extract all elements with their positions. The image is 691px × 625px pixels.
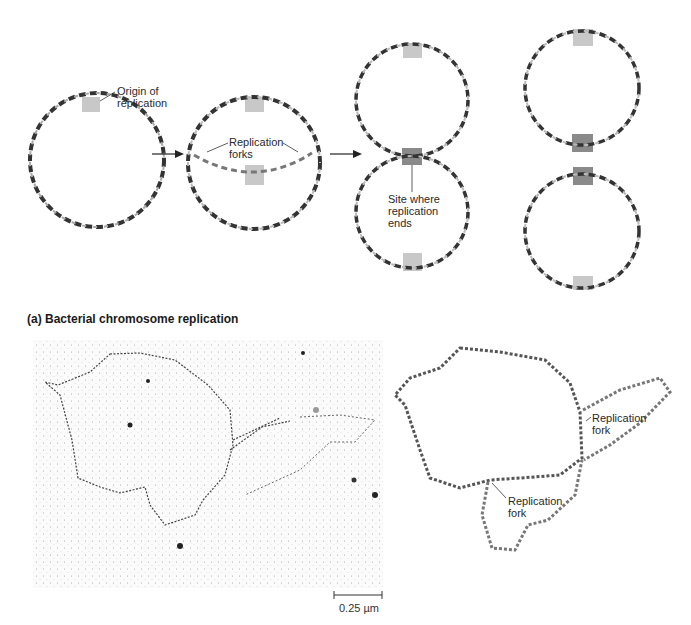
label-fork-lower-line1: Replication: [508, 495, 562, 507]
caption-panel-a: (a) Bacterial chromosome replication: [27, 312, 238, 326]
scale-bar-label: 0.25 µm: [339, 602, 379, 614]
circle-step-2: [188, 97, 320, 229]
circle-step-4-top: [525, 29, 639, 152]
label-site-line3: ends: [388, 217, 440, 229]
circle-step-1: [30, 92, 164, 227]
label-site-line1: Site where: [388, 193, 440, 205]
circle-step-3: [356, 43, 468, 271]
label-fork-lower-line2: fork: [508, 507, 562, 519]
label-fork-lower: Replication fork: [508, 495, 562, 519]
electron-micrograph: [33, 340, 383, 599]
circle-step-4-bottom: [525, 167, 639, 290]
label-origin-line1: Origin of: [117, 85, 167, 97]
label-fork-upper: Replication fork: [592, 412, 646, 436]
label-site-end: Site where replication ends: [388, 193, 440, 229]
label-forks-line2: forks: [229, 148, 283, 160]
label-replication-forks: Replication forks: [229, 136, 283, 160]
label-origin-line2: replication: [117, 97, 167, 109]
label-fork-upper-line1: Replication: [592, 412, 646, 424]
arrow-1: [152, 150, 184, 158]
label-origin: Origin of replication: [117, 85, 167, 109]
label-fork-upper-line2: fork: [592, 424, 646, 436]
label-forks-line1: Replication: [229, 136, 283, 148]
arrow-2: [330, 150, 362, 158]
label-site-line2: replication: [388, 205, 440, 217]
micrograph-tracing: [395, 348, 670, 550]
